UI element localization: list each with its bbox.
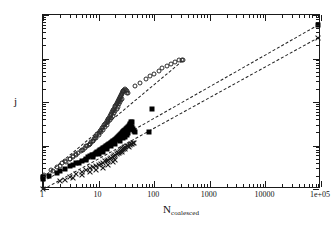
x-axis-tick-label: 1000: [201, 190, 217, 199]
figure-panel: j Ncoalesced 110100100010000 11010010001…: [0, 0, 333, 227]
x-axis-tick-label: 10000: [254, 190, 274, 199]
x-axis-tick-label: 1: [40, 190, 44, 199]
x-axis-tick-label: 1e+05: [310, 190, 330, 199]
x-axis-tick-label: 10: [94, 190, 102, 199]
y-tick-label-group: 110100100010000: [0, 0, 333, 227]
x-axis-tick-label: 100: [147, 190, 159, 199]
